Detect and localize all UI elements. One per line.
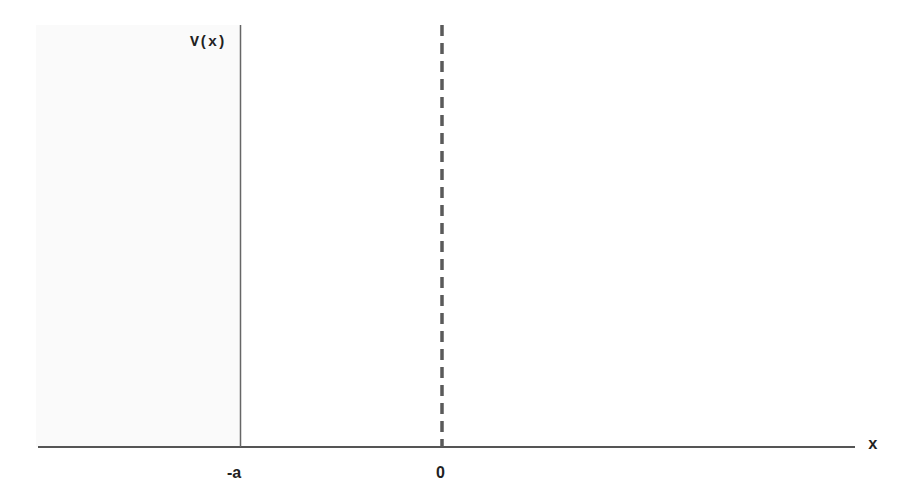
- diagram-canvas: [0, 0, 912, 501]
- tick-label-minus-a: -a: [227, 464, 241, 482]
- y-axis-label: V(x): [190, 34, 226, 51]
- x-axis-label: x: [868, 436, 878, 454]
- tick-label-zero: 0: [436, 464, 445, 482]
